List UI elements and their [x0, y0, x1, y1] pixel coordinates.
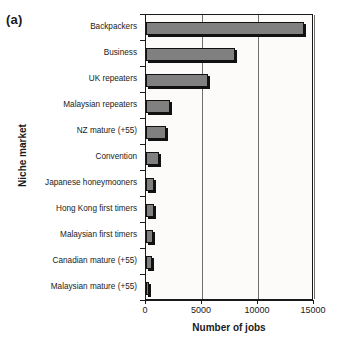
x-axis-tick-labels: 050001000015000 [145, 305, 313, 319]
category-tick-label-text: Business [104, 49, 137, 57]
category-tick-label: NZ mature (+55) [0, 118, 142, 144]
x-axis-line [145, 300, 313, 301]
bar-row [146, 41, 235, 67]
bar-row [146, 15, 304, 41]
bar [146, 48, 235, 61]
x-axis-tick-label: 0 [142, 305, 147, 315]
bar [146, 178, 154, 191]
category-tick-label-text: Malaysian mature (+55) [51, 283, 137, 291]
category-tick-label: Backpackers [0, 14, 142, 40]
category-tick-label-text: Japanese honeymooners [45, 179, 137, 187]
category-tick-label-text: NZ mature (+55) [77, 127, 137, 135]
bar-row [146, 223, 153, 249]
category-tick-label-text: Backpackers [90, 23, 137, 31]
bar [146, 282, 149, 295]
bar-row [146, 119, 166, 145]
plot-area [145, 14, 313, 300]
x-axis-tick [313, 300, 314, 304]
category-tick-label: Malaysian repeaters [0, 92, 142, 118]
x-axis-tick-label: 5000 [191, 305, 211, 315]
bar [146, 126, 166, 139]
category-tick-label-text: Malaysian repeaters [63, 101, 137, 109]
category-tick-label: Malaysian mature (+55) [0, 274, 142, 300]
bar [146, 22, 304, 35]
category-tick-label: Canadian mature (+55) [0, 248, 142, 274]
bar-row [146, 275, 149, 301]
category-tick-labels: BackpackersBusinessUK repeatersMalaysian… [0, 14, 142, 300]
category-tick-label: Convention [0, 144, 142, 170]
x-axis-tick [145, 300, 146, 304]
bar [146, 74, 208, 87]
bar [146, 100, 170, 113]
bar-series [146, 15, 312, 299]
x-axis-tick-label: 10000 [244, 305, 269, 315]
category-tick-label-text: Canadian mature (+55) [53, 257, 137, 265]
x-axis-tick-label: 15000 [300, 305, 325, 315]
category-tick-label: Japanese honeymooners [0, 170, 142, 196]
bar-row [146, 93, 170, 119]
category-tick-label-text: UK repeaters [89, 75, 137, 83]
bar-row [146, 67, 208, 93]
bar-row [146, 145, 159, 171]
bar-row [146, 249, 152, 275]
bar [146, 230, 153, 243]
bar [146, 256, 152, 269]
figure-panel-a: (a) Niche market BackpackersBusinessUK r… [0, 0, 340, 346]
category-tick-label: Malaysian first timers [0, 222, 142, 248]
category-tick-label: UK repeaters [0, 66, 142, 92]
category-tick-label-text: Convention [96, 153, 137, 161]
bar [146, 204, 154, 217]
bar [146, 152, 159, 165]
bar-row [146, 197, 154, 223]
gridline [314, 15, 315, 299]
category-tick-label: Hong Kong first timers [0, 196, 142, 222]
category-tick-label-text: Malaysian first timers [60, 231, 137, 239]
category-tick-label: Business [0, 40, 142, 66]
x-axis-title: Number of jobs [145, 322, 313, 333]
bar-row [146, 171, 154, 197]
category-tick-label-text: Hong Kong first timers [56, 205, 137, 213]
x-axis-tick [257, 300, 258, 304]
x-axis-tick [201, 300, 202, 304]
